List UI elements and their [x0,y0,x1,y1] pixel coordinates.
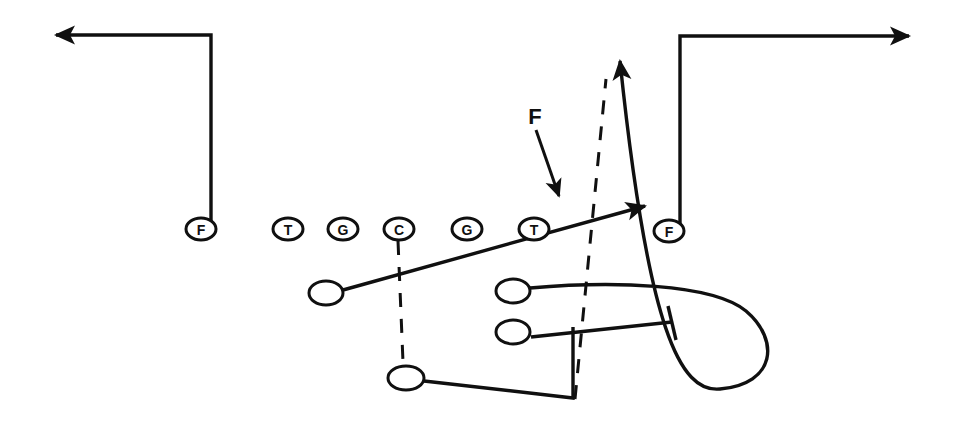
right-end-route-line [680,36,909,230]
lineman-right-tackle[interactable]: T [519,218,549,240]
routes-layer [56,35,909,398]
annotation-layer: F [528,104,559,197]
lineman-center[interactable]: C [384,218,414,240]
right-upper-back-loop-route-line [530,61,768,389]
lineman-left-end-label: F [197,222,206,238]
snap-motion-dashed [575,79,606,399]
lineman-left-guard[interactable]: G [328,218,358,240]
right-lower-back-block-route-line [531,322,672,337]
lineman-right-end-label: F [665,224,674,240]
lineman-left-tackle-label: T [284,222,293,238]
annotation-pointer-arrow-icon [536,130,559,196]
back-right-upper-back-marker[interactable] [496,279,530,303]
lineman-center-label: C [394,222,404,238]
lineman-left-guard-label: G [338,222,349,238]
left-back-diagonal-route-line [343,206,645,290]
lineman-right-tackle-label: T [530,222,539,238]
right-end-route [680,36,909,230]
back-right-lower-back-marker[interactable] [496,320,530,344]
lineman-right-guard-label: G [462,222,473,238]
back-left-back-marker[interactable] [309,281,343,305]
left-end-route [56,35,211,228]
lineman-right-guard[interactable]: G [452,218,482,240]
center-to-deep-back-dashed [398,241,403,362]
football-play-diagram: FTGCGTF F [0,0,959,422]
lineman-left-end[interactable]: F [186,218,216,240]
play-canvas: FTGCGTF F [0,0,959,422]
back-deep-back-marker[interactable] [388,366,424,390]
left-back-diagonal-route [343,206,645,290]
lineman-right-end[interactable]: F [654,220,684,242]
right-lower-back-block-route [531,306,676,340]
annotation-label-f: F [528,104,541,129]
dashed-lines-layer [398,79,606,399]
players-layer: FTGCGTF [186,218,684,390]
right-upper-back-loop-route [530,61,768,389]
left-end-route-line [56,35,211,228]
lineman-left-tackle[interactable]: T [273,218,303,240]
